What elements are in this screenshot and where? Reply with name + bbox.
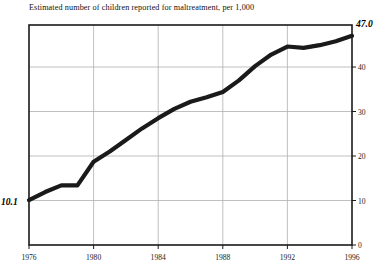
x-axis-tick-label: 1980 xyxy=(86,253,101,262)
x-axis-tick-label: 1984 xyxy=(151,253,166,262)
chart-figure: Estimated number of children reported fo… xyxy=(0,0,385,273)
x-axis-tick-label: 1988 xyxy=(215,253,230,262)
start-value-label: 10.1 xyxy=(1,196,18,207)
y-axis-tick-label: 10 xyxy=(358,196,366,205)
y-axis-tick-label: 20 xyxy=(358,152,366,161)
plot-background xyxy=(29,25,352,245)
y-axis-tick-label: 0 xyxy=(358,241,362,250)
x-axis-tick-label: 1992 xyxy=(280,253,295,262)
chart-plot-area xyxy=(0,0,385,273)
x-axis-tick-label: 1976 xyxy=(21,253,36,262)
end-value-label: 47.0 xyxy=(356,18,373,29)
x-axis-tick-label: 1996 xyxy=(344,253,359,262)
y-axis-tick-label: 40 xyxy=(358,63,366,72)
y-axis-tick-label: 30 xyxy=(358,107,366,116)
